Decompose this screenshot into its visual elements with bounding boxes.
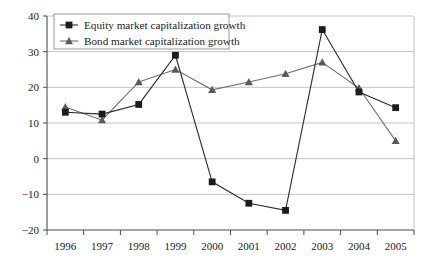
series-polyline <box>65 30 395 211</box>
data-point-marker <box>356 89 363 96</box>
series-equity-market-capitalization-growth <box>62 26 399 214</box>
x-axis-tick-label: 2001 <box>238 240 260 252</box>
legend-item-bond[interactable]: Bond market capitalization growth <box>60 35 240 47</box>
x-axis-tick-label: 2000 <box>201 240 224 252</box>
series-polyline <box>65 62 395 140</box>
x-axis-tick-label: 2003 <box>311 240 334 252</box>
y-axis-tick-label: 20 <box>28 81 40 93</box>
series-bond-market-capitalization-growth <box>61 58 399 144</box>
y-axis-ticks: −20−10010203040 <box>22 10 47 236</box>
data-point-marker <box>172 52 179 59</box>
y-axis-tick-label: 30 <box>28 46 40 58</box>
y-axis-tick-label: 40 <box>28 10 40 22</box>
chart-legend[interactable]: Equity market capitalization growthBond … <box>54 14 246 49</box>
chart-container: −20−10010203040 199619971998199920002001… <box>0 0 428 260</box>
x-axis-tick-label: 1996 <box>54 240 77 252</box>
x-axis-tick-label: 2005 <box>385 240 408 252</box>
data-point-marker <box>99 111 106 118</box>
legend-item-label: Bond market capitalization growth <box>84 35 240 47</box>
y-axis-tick-label: 10 <box>28 117 40 129</box>
x-axis-tick-label: 1997 <box>91 240 114 252</box>
x-axis-tick-label: 1999 <box>164 240 187 252</box>
data-point-marker <box>392 137 400 144</box>
data-point-marker <box>62 109 69 116</box>
data-point-marker <box>282 207 289 214</box>
x-axis-tick-label: 2004 <box>348 240 371 252</box>
legend-item-equity[interactable]: Equity market capitalization growth <box>60 19 246 31</box>
data-point-marker <box>66 22 73 29</box>
x-axis-ticks: 1996199719981999200020012002200320042005 <box>47 230 414 252</box>
data-point-marker <box>319 26 326 33</box>
x-axis-tick-label: 1998 <box>128 240 151 252</box>
y-axis-tick-label: 0 <box>34 153 40 165</box>
data-point-marker <box>392 104 399 111</box>
data-point-marker <box>245 200 252 207</box>
y-axis-tick-label: −10 <box>22 188 40 200</box>
data-point-marker <box>318 58 326 65</box>
line-chart: −20−10010203040 199619971998199920002001… <box>0 0 428 260</box>
data-point-marker <box>135 101 142 108</box>
y-axis-tick-label: −20 <box>22 224 40 236</box>
data-point-marker <box>209 178 216 185</box>
x-axis-tick-label: 2002 <box>275 240 297 252</box>
legend-item-label: Equity market capitalization growth <box>84 19 246 31</box>
